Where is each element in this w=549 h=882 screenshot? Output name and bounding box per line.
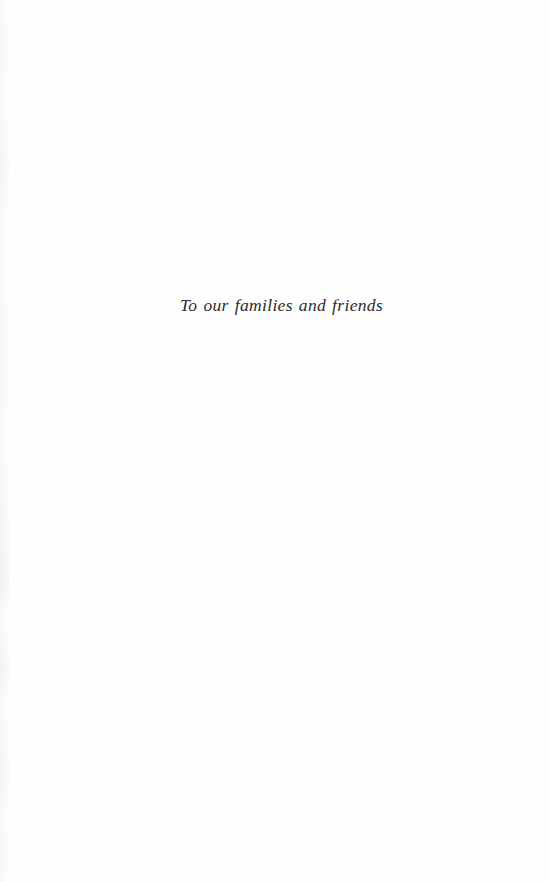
document-page: To our families and friends (0, 0, 549, 882)
scan-noise-texture (0, 0, 549, 882)
dedication-text: To our families and friends (0, 294, 549, 316)
page-gutter-shadow (0, 0, 9, 882)
